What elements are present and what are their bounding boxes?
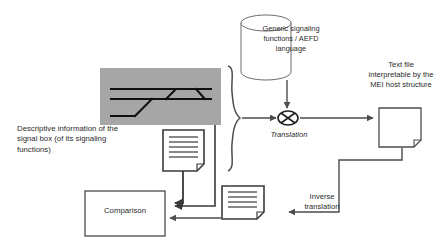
cylinder-label: Generic signaling functions / AEFD langu… bbox=[243, 24, 339, 53]
descriptive-info-label: Descriptive information of the signal bo… bbox=[17, 124, 177, 155]
document-lower-icon bbox=[222, 186, 264, 219]
track-panel bbox=[100, 68, 221, 125]
textfile-page-icon bbox=[379, 108, 421, 147]
textfile-label: Text file interpretable by the MEI host … bbox=[356, 60, 446, 90]
diagram-canvas: Generic signaling functions / AEFD langu… bbox=[0, 0, 447, 248]
inverse-translation-label: Inverse translation bbox=[288, 192, 356, 212]
connector-doc-upper-to-comparison bbox=[175, 171, 183, 203]
comparison-label: Comparison bbox=[86, 206, 164, 216]
brace-icon bbox=[228, 66, 240, 171]
translation-label: Translation bbox=[258, 130, 320, 140]
translation-symbol-icon bbox=[278, 111, 298, 125]
